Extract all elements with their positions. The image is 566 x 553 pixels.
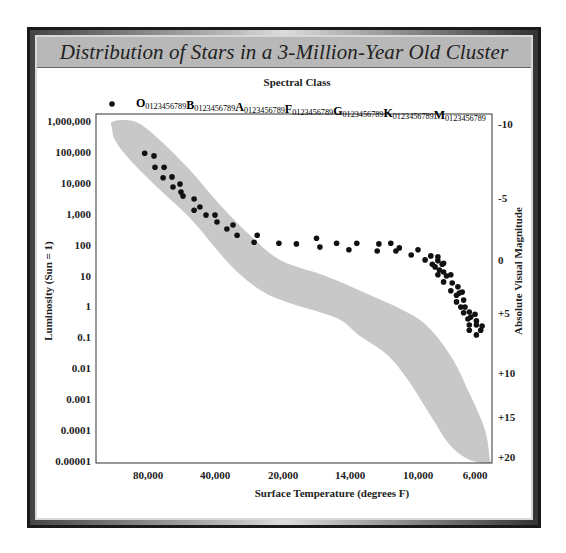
- legend-marker: [109, 101, 115, 107]
- spectral-class-letter: A: [235, 100, 244, 114]
- spectral-subdivisions: 0123456789: [145, 102, 186, 111]
- spectral-class-letter: M: [434, 108, 445, 122]
- star-point: [334, 241, 340, 247]
- star-point: [151, 153, 157, 159]
- star-point: [197, 204, 203, 210]
- y-tick-label: 1,000,000: [47, 115, 92, 127]
- y-tick-label: 1,000: [66, 208, 91, 220]
- y-tick-label: 0.001: [66, 393, 91, 405]
- spectral-class-label: Spectral Class: [264, 76, 332, 88]
- star-point: [374, 248, 380, 254]
- y-tick-label: 0.0001: [61, 424, 91, 436]
- star-point: [203, 212, 209, 218]
- y2-tick-label: -10: [498, 118, 513, 130]
- x-tick-label: 10,000: [403, 469, 434, 481]
- star-point: [462, 304, 468, 310]
- star-point: [454, 299, 460, 305]
- x-tick-label: 80,000: [133, 469, 164, 481]
- star-point: [177, 181, 183, 187]
- star-point: [448, 288, 454, 294]
- star-point: [441, 260, 447, 266]
- spectral-class-letter: F: [285, 102, 292, 116]
- spectral-subdivisions: 0123456789: [244, 106, 285, 115]
- star-point: [354, 241, 360, 247]
- x-tick-label: 6,000: [463, 469, 488, 481]
- star-point: [467, 327, 473, 333]
- star-point: [397, 245, 403, 251]
- star-point: [408, 252, 414, 258]
- star-point: [478, 327, 484, 333]
- y2-tick-label: +10: [498, 367, 516, 379]
- star-point: [191, 207, 197, 213]
- star-point: [224, 226, 230, 232]
- y2-tick-label: +15: [498, 411, 516, 423]
- chart-svg: 1,000,000100,00010,0001,0001001010.10.01…: [0, 0, 566, 553]
- star-point: [317, 244, 323, 250]
- x-tick-label: 14,000: [335, 469, 366, 481]
- star-point: [376, 241, 382, 247]
- star-point: [142, 150, 148, 156]
- star-point: [474, 322, 480, 328]
- spectral-subdivisions: 0123456789: [194, 104, 235, 113]
- star-point: [180, 193, 186, 199]
- spectral-class-letter: O: [136, 96, 145, 110]
- main-sequence-band: [111, 120, 492, 464]
- y-tick-label: 0.00001: [55, 455, 91, 467]
- star-point: [230, 222, 236, 228]
- star-point: [191, 196, 197, 202]
- spectral-class-scale: O0123456789B0123456789A0123456789F012345…: [136, 96, 486, 123]
- star-point: [212, 212, 218, 218]
- star-point: [448, 272, 454, 278]
- star-point: [152, 164, 158, 170]
- star-point: [276, 241, 282, 247]
- star-point: [435, 272, 441, 278]
- star-point: [346, 247, 352, 253]
- star-point: [441, 279, 447, 285]
- star-point: [254, 233, 260, 239]
- y-tick-label: 100: [75, 239, 92, 251]
- spectral-subdivisions: 0123456789: [292, 108, 333, 117]
- star-point: [467, 309, 473, 315]
- y2-tick-label: -5: [498, 192, 508, 204]
- y2-tick-label: +5: [498, 307, 510, 319]
- y2-tick-label: 0: [498, 254, 504, 266]
- star-point: [161, 164, 167, 170]
- x-axis-label: Surface Temperature (degrees F): [255, 487, 410, 500]
- star-point: [428, 253, 434, 259]
- star-point: [251, 239, 257, 245]
- star-point: [435, 258, 441, 264]
- spectral-class-letter: G: [333, 104, 342, 118]
- star-point: [314, 236, 320, 242]
- star-point: [422, 257, 428, 263]
- y-tick-label: 100,000: [55, 146, 91, 158]
- y-tick-label: 1: [86, 300, 92, 312]
- star-point: [457, 290, 463, 296]
- y2-axis-label: Absolute Visual Magnitude: [512, 207, 524, 335]
- star-point: [449, 280, 455, 286]
- y-tick-label: 10,000: [61, 177, 92, 189]
- star-point: [388, 241, 394, 247]
- spectral-class-letter: B: [186, 98, 194, 112]
- spectral-subdivisions: 0123456789: [445, 114, 486, 123]
- star-point: [294, 241, 300, 247]
- y-tick-label: 0.01: [72, 362, 91, 374]
- star-point: [461, 297, 467, 303]
- y2-tick-label: +20: [498, 451, 516, 463]
- star-point: [461, 310, 467, 316]
- x-axis-ticks: 80,00040,00020,00014,00010,0006,000: [133, 469, 488, 481]
- star-point: [234, 233, 240, 239]
- star-point: [468, 314, 474, 320]
- star-point: [467, 322, 473, 328]
- band-layer: [111, 120, 492, 464]
- star-point: [415, 247, 421, 253]
- y-tick-label: 10: [80, 270, 92, 282]
- star-point: [170, 184, 176, 190]
- star-point: [214, 219, 220, 225]
- spectral-subdivisions: 0123456789: [342, 110, 383, 119]
- x-tick-label: 20,000: [268, 469, 299, 481]
- y-tick-label: 0.1: [77, 331, 91, 343]
- star-point: [169, 174, 175, 180]
- x-tick-label: 40,000: [200, 469, 231, 481]
- star-point: [474, 332, 480, 338]
- y-axis-label: Luminosity (Sun = 1): [42, 241, 55, 341]
